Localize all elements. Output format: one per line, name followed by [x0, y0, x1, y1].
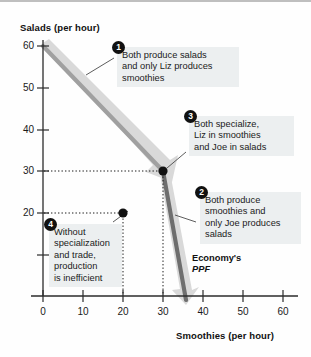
y-tick-label-40: 40 [16, 124, 34, 135]
x-axis-title: Smoothies (per hour) [176, 330, 274, 341]
ppf-chart: Salads (per hour) Smoothies (per hour) 6… [0, 0, 311, 357]
annotation-callout-1: Both produce salads and only Liz produce… [117, 47, 239, 87]
ppf-lower-segment [163, 171, 186, 300]
ppf-curve-label: Economy's PPF [192, 253, 241, 275]
x-tick-label-60: 60 [274, 306, 292, 317]
annotation-badge-4: 4 [44, 218, 57, 231]
annotation-callout-2: Both produce smoothies and only Joe prod… [200, 192, 301, 244]
y-tick-label-20: 20 [16, 207, 34, 218]
y-axis-title: Salads (per hour) [20, 22, 100, 33]
data-point-no-trade [118, 208, 127, 217]
ppf-label-line2: PPF [192, 264, 210, 274]
annotation-badge-2: 2 [195, 186, 208, 199]
annotation-callout-4: Without specialization and trade, produc… [49, 224, 122, 287]
y-tick-label-50: 50 [16, 82, 34, 93]
x-tick-label-20: 20 [114, 306, 132, 317]
y-tick-label-30: 30 [16, 165, 34, 176]
x-tick-label-10: 10 [74, 306, 92, 317]
data-point-specialization [158, 166, 167, 175]
annotation-callout-3: Both specialize, Liz in smoothies and Jo… [189, 116, 294, 156]
x-tick-label-30: 30 [154, 306, 172, 317]
x-tick-label-50: 50 [234, 306, 252, 317]
annotation-badge-1: 1 [112, 41, 125, 54]
x-tick-label-0: 0 [34, 306, 52, 317]
annotation-badge-3: 3 [184, 110, 197, 123]
y-tick-label-60: 60 [16, 40, 34, 51]
x-tick-label-40: 40 [194, 306, 212, 317]
ppf-label-line1: Economy's [192, 253, 241, 263]
